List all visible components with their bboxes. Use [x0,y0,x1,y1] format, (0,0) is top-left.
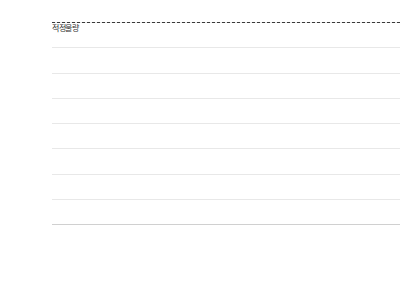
reference-line-label: 적정물량 [52,22,79,33]
plot-area: 적정물량 [52,22,400,224]
bar-chart: 적정물량 40,00035,00030,00025,00020,00015,00… [0,0,415,284]
reference-line-적정물량 [52,22,400,23]
bar-series [52,22,400,224]
gridline [52,224,400,225]
x-axis-labels [52,226,400,284]
